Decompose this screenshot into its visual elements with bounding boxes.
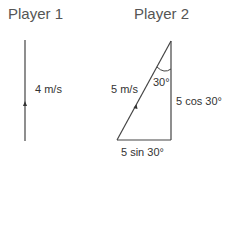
player1-arrowhead-icon: [23, 101, 27, 106]
player2-angle-label: 30°: [153, 76, 170, 88]
player2-horizontal-label: 5 sin 30°: [121, 146, 164, 158]
player2-hypotenuse-label: 5 m/s: [111, 83, 138, 95]
player2-vertical-label: 5 cos 30°: [176, 95, 222, 107]
player2-angle-arc: [157, 67, 171, 71]
player1-velocity-label: 4 m/s: [35, 83, 62, 95]
